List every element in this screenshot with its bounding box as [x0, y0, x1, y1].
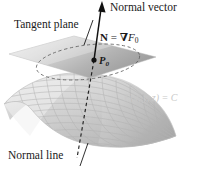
- label-point-P0: P0: [99, 56, 109, 67]
- gradient-F-subscript: 0: [135, 36, 139, 45]
- label-tangent-plane: Tangent plane: [14, 19, 79, 31]
- gradient-equals-symbol: =: [108, 31, 120, 43]
- gradient-F-symbol: F: [128, 31, 135, 43]
- normal-line-leader: [80, 143, 88, 166]
- level-surface: [4, 71, 178, 154]
- label-normal-line: Normal line: [8, 150, 63, 162]
- gradient-N-symbol: N: [100, 31, 108, 43]
- point-P-subscript: 0: [105, 60, 109, 68]
- label-normal-vector: Normal vector: [110, 2, 177, 14]
- label-gradient-equation: N = ∇F0: [100, 32, 138, 43]
- point-P0-dot: [91, 57, 96, 62]
- nabla-icon: ∇: [120, 31, 128, 43]
- label-surface-equation: F(x, y, z) = C: [124, 93, 177, 103]
- figure-container: Normal vector Tangent plane Normal line …: [0, 0, 204, 172]
